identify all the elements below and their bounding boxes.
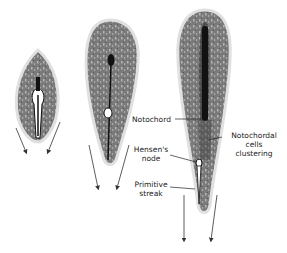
label-line: Notochordal [225, 131, 283, 140]
embryo-stage-late [170, 10, 230, 240]
label-line: streak [129, 189, 173, 198]
label-line: node [129, 154, 173, 163]
label-primitive-streak: Primitive streak [129, 180, 173, 198]
label-line: clustering [225, 149, 283, 158]
embryo-diagram [0, 0, 287, 253]
embryo-stage-early [16, 50, 60, 152]
label-notochord: Notochord [132, 115, 171, 124]
label-line: Hensen's [129, 145, 173, 154]
label-hensens-node: Hensen's node [129, 145, 173, 163]
label-notochordal-cells: Notochordal cells clustering [225, 131, 283, 158]
label-line: cells [225, 140, 283, 149]
label-line: Primitive [129, 180, 173, 189]
